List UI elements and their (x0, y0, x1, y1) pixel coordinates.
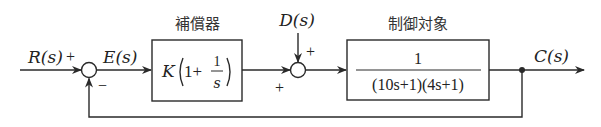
reference-signal-label: R(s) (27, 47, 63, 67)
sum1-minus-sign: − (98, 77, 107, 94)
compensator-fraction-numerator: 1 (214, 54, 221, 69)
sum1-plus-sign: + (66, 48, 75, 65)
block-diagram: R(s) + − E(s) 補償器 K 1+ 1 s + D(s) + 制御対象… (0, 0, 601, 127)
sum2-plus-sign-top: + (306, 43, 315, 60)
plant-numerator: 1 (414, 50, 422, 67)
compensator-gain-K: K (161, 61, 176, 81)
compensator-fraction-denominator: s (213, 75, 220, 91)
compensator-title: 補償器 (175, 15, 220, 33)
sum2-plus-sign-left: + (275, 79, 284, 96)
plant-title: 制御対象 (388, 15, 448, 33)
disturbance-signal-label: D(s) (278, 10, 315, 30)
plant-denominator: (10s+1)(4s+1) (372, 76, 464, 94)
output-signal-label: C(s) (534, 46, 569, 66)
error-signal-label: E(s) (102, 47, 137, 67)
summing-junction-2 (291, 63, 306, 78)
compensator-one-plus: 1+ (184, 62, 202, 81)
summing-junction-1 (82, 63, 97, 78)
